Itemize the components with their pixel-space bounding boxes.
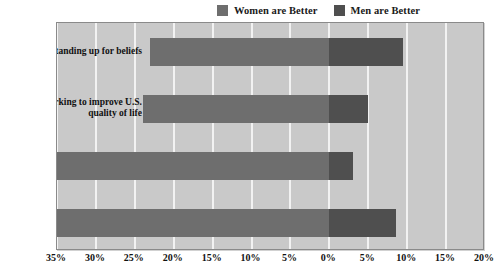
x-axis-tick-label: 0% [321,252,336,263]
plot-area: standing up for beliefsworking to improv… [56,22,484,250]
bar-row[interactable] [57,152,483,180]
x-axis-tick-label: 10% [396,252,416,263]
x-axis-tick-label: 25% [124,252,144,263]
bar-row[interactable] [57,95,483,123]
x-axis-tick-label: 5% [360,252,375,263]
x-axis-tick-label: 30% [85,252,105,263]
bar-segment-women[interactable] [57,209,329,237]
legend-label-men: Men are Better [351,5,420,16]
bar-segment-men[interactable] [329,152,352,180]
chart-legend: Women are Better Men are Better [0,2,492,18]
bar-series [57,23,483,249]
legend-item-men[interactable]: Men are Better [334,5,420,16]
x-axis-tick-label: 5% [282,252,297,263]
legend-swatch-icon-women [217,5,228,16]
x-axis-tick-label: 15% [435,252,455,263]
bar-row[interactable] [57,38,483,66]
x-axis-tick-label: 15% [202,252,222,263]
x-axis-tick-label: 35% [46,252,66,263]
bar-segment-men[interactable] [329,38,403,66]
x-axis-tick-label: 20% [163,252,183,263]
bar-segment-women[interactable] [57,152,329,180]
bar-segment-men[interactable] [329,209,395,237]
bar-segment-women[interactable] [143,95,330,123]
legend-swatch-icon-men [334,5,345,16]
bar-row[interactable] [57,209,483,237]
x-axis: 35%30%25%20%15%10%5%0%5%10%15%20% [56,252,484,272]
legend-label-women: Women are Better [234,5,318,16]
x-axis-tick-label: 10% [241,252,261,263]
x-axis-tick-label: 20% [474,252,494,263]
legend-item-women[interactable]: Women are Better [217,5,318,16]
bar-segment-women[interactable] [150,38,329,66]
bar-segment-men[interactable] [329,95,368,123]
